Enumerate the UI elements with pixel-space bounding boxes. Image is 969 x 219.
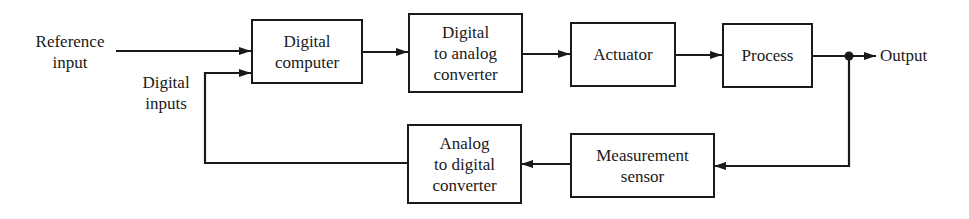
- digital-computer-block: Digital computer: [251, 19, 363, 84]
- dac-block: Digital to analog converter: [408, 13, 523, 93]
- measurement-sensor-block: Measurement sensor: [570, 133, 715, 198]
- reference-input-label: Reference input: [22, 31, 118, 73]
- adc-block: Analog to digital converter: [407, 124, 522, 204]
- output-label: Output: [880, 45, 946, 66]
- actuator-block: Actuator: [570, 22, 676, 87]
- arrow-adc-to-computer: [205, 73, 407, 163]
- process-block: Process: [722, 23, 813, 88]
- junction-dot: [845, 52, 854, 61]
- digital-inputs-label: Digital inputs: [134, 72, 198, 114]
